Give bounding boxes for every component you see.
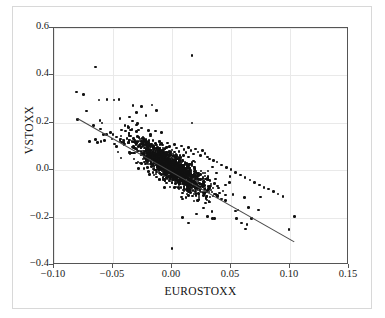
x-axis-label: EUROSTOXX bbox=[53, 285, 348, 297]
x-tick-mark bbox=[171, 264, 172, 268]
y-tick-mark bbox=[49, 217, 53, 218]
x-tick-label: −0.10 bbox=[23, 268, 83, 279]
y-tick-mark bbox=[49, 264, 53, 265]
x-tick-mark bbox=[53, 264, 54, 268]
x-tick-label: 0.10 bbox=[259, 268, 319, 279]
y-tick-label: −0.4 bbox=[8, 257, 49, 268]
x-tick-mark bbox=[289, 264, 290, 268]
x-tick-label: −0.05 bbox=[82, 268, 142, 279]
y-tick-mark bbox=[49, 169, 53, 170]
y-tick-label: 0.6 bbox=[8, 20, 49, 31]
y-tick-mark bbox=[49, 27, 53, 28]
scatter-plot-figure: −0.10−0.050.000.050.100.15 −0.4−0.20.00.… bbox=[0, 0, 385, 318]
x-tick-label: 0.15 bbox=[318, 268, 378, 279]
y-tick-label: −0.2 bbox=[8, 210, 49, 221]
x-tick-mark bbox=[348, 264, 349, 268]
x-tick-label: 0.05 bbox=[200, 268, 260, 279]
x-tick-mark bbox=[112, 264, 113, 268]
x-tick-label: 0.00 bbox=[141, 268, 201, 279]
y-tick-mark bbox=[49, 74, 53, 75]
y-tick-mark bbox=[49, 122, 53, 123]
y-axis-label: VSTOXX bbox=[23, 75, 35, 185]
regression-line bbox=[54, 28, 347, 263]
plot-area bbox=[53, 27, 348, 264]
x-tick-mark bbox=[230, 264, 231, 268]
